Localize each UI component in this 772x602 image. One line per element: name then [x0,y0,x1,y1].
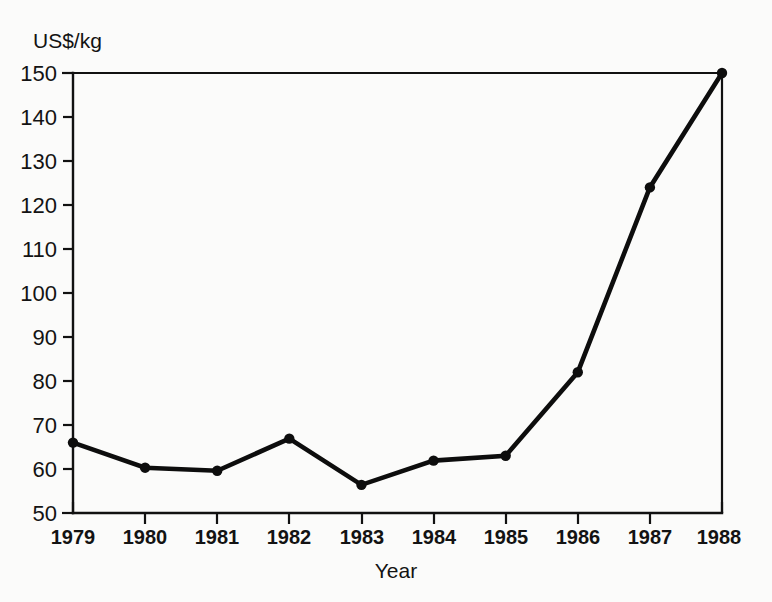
x-axis-tick-labels: 1979 1980 1981 1982 1983 1984 1985 1986 … [51,526,742,548]
data-point-1988 [717,68,727,78]
x-tick-label-1987: 1987 [628,526,673,548]
y-tick-label-90: 90 [33,325,57,350]
data-point-1987 [645,182,655,192]
y-tick-label-150: 150 [20,61,57,86]
data-point-1984 [428,455,438,465]
data-point-1981 [212,466,222,476]
x-tick-label-1980: 1980 [123,526,168,548]
y-tick-label-130: 130 [20,149,57,174]
data-point-1982 [284,433,294,443]
x-tick-label-1981: 1981 [195,526,240,548]
data-point-1979 [68,437,78,447]
data-series-price [68,68,727,490]
y-tick-label-80: 80 [33,369,57,394]
x-tick-label-1986: 1986 [556,526,601,548]
x-tick-label-1988: 1988 [697,526,742,548]
plot-frame [73,73,722,513]
x-tick-label-1984: 1984 [412,526,457,548]
y-tick-label-120: 120 [20,193,57,218]
y-tick-label-70: 70 [33,413,57,438]
y-tick-label-50: 50 [33,501,57,526]
data-point-1985 [500,451,510,461]
y-tick-label-140: 140 [20,105,57,130]
x-tick-label-1983: 1983 [340,526,385,548]
y-axis-tick-labels: 150 140 130 120 110 100 90 80 70 60 50 [20,61,57,526]
data-point-1983 [356,480,366,490]
data-point-1986 [573,367,583,377]
data-point-1980 [140,462,150,472]
y-tick-label-60: 60 [33,457,57,482]
chart-screenshot: 150 140 130 120 110 100 90 80 70 60 50 [0,0,772,602]
x-tick-label-1982: 1982 [267,526,312,548]
y-tick-label-100: 100 [20,281,57,306]
line-chart: 150 140 130 120 110 100 90 80 70 60 50 [0,0,772,602]
x-axis-title: Year [375,559,417,582]
y-tick-label-110: 110 [22,237,57,262]
y-axis-title: US$/kg [33,29,102,52]
series-markers [68,68,727,490]
series-line [73,73,722,485]
x-tick-label-1985: 1985 [484,526,529,548]
x-tick-label-1979: 1979 [51,526,96,548]
